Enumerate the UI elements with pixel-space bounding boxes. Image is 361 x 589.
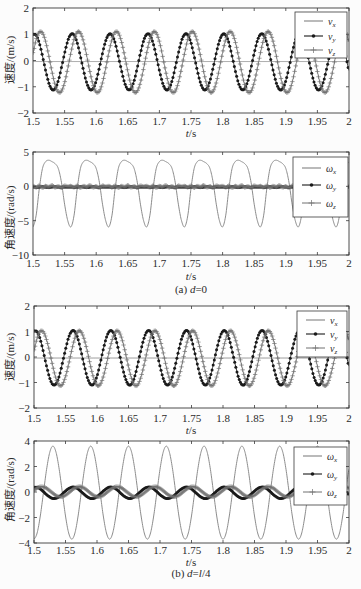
- chart-a-velocity: vxvyvz1.51.551.61.651.71.751.81.851.91.9…: [17, 2, 351, 127]
- data-point-marker: [77, 338, 80, 341]
- data-point-marker: [157, 63, 160, 66]
- data-point-marker: [118, 351, 121, 354]
- data-point-marker: [310, 72, 313, 75]
- data-point-marker: [196, 72, 199, 75]
- data-point-marker: [286, 71, 289, 74]
- x-tick-label: 1.95: [308, 412, 328, 424]
- x-tick-label: 1.95: [308, 115, 328, 127]
- data-point-marker: [43, 354, 46, 357]
- data-point-marker: [238, 378, 241, 381]
- data-point-marker: [42, 58, 45, 61]
- data-point-marker: [284, 375, 287, 378]
- data-point-marker: [158, 68, 161, 71]
- legend-box: [295, 12, 347, 58]
- chart-b-angular-velocity: ωxωyωz1.51.551.61.651.71.751.81.851.91.9…: [18, 435, 351, 556]
- data-point-marker: [96, 73, 99, 76]
- data-point-marker: [234, 366, 237, 369]
- data-point-marker: [155, 349, 158, 352]
- data-point-marker: [268, 349, 271, 352]
- x-tick-label: 1.8: [216, 544, 230, 556]
- data-point-marker: [194, 352, 197, 355]
- data-point-marker: [322, 81, 325, 84]
- data-point-marker: [256, 337, 259, 340]
- data-point-marker: [80, 62, 83, 65]
- data-point-marker: [104, 39, 107, 42]
- data-point-marker: [160, 78, 163, 81]
- data-point-marker: [82, 363, 85, 366]
- data-point-marker: [181, 334, 184, 337]
- legend: vxvyvz: [295, 12, 347, 58]
- y-tick-label: 0: [24, 180, 30, 192]
- x-tick-label: 2: [346, 115, 352, 127]
- data-point-marker: [251, 355, 254, 358]
- data-point-marker: [100, 57, 103, 60]
- data-point-marker: [47, 82, 50, 85]
- y-tick-label: 5: [24, 146, 30, 158]
- data-point-marker: [133, 374, 136, 377]
- data-point-marker: [42, 349, 45, 352]
- data-point-marker: [105, 336, 108, 339]
- data-point-marker: [122, 370, 125, 373]
- data-point-marker: [215, 52, 218, 55]
- data-point-marker: [99, 359, 102, 362]
- data-point-marker: [139, 350, 142, 353]
- data-point-marker: [44, 68, 47, 71]
- data-point-marker: [63, 352, 66, 355]
- data-point-marker: [160, 369, 163, 372]
- data-point-marker: [64, 46, 67, 49]
- data-point-marker: [39, 340, 42, 343]
- data-point-marker: [214, 57, 217, 60]
- data-point-marker: [312, 81, 315, 84]
- data-point-marker: [121, 366, 124, 369]
- x-tick-label: 1.8: [216, 412, 230, 424]
- data-point-marker: [215, 348, 218, 351]
- data-point-marker: [98, 364, 101, 367]
- data-point-marker: [43, 63, 46, 66]
- data-point-marker: [114, 337, 117, 340]
- data-point-marker: [248, 74, 251, 77]
- x-tick-label: 1.75: [181, 257, 201, 269]
- x-tick-label: 1.85: [245, 544, 265, 556]
- y-tick-label: 0: [24, 55, 30, 67]
- data-point-marker: [97, 368, 100, 371]
- data-point-marker: [132, 82, 135, 85]
- data-point-marker: [137, 59, 140, 62]
- data-point-marker: [115, 45, 118, 48]
- data-point-marker: [76, 42, 79, 45]
- data-point-marker: [274, 78, 277, 81]
- data-point-marker: [48, 377, 51, 380]
- data-point-marker: [230, 346, 233, 349]
- data-point-marker: [309, 67, 312, 70]
- data-point-marker: [270, 354, 273, 357]
- y-tick-label: −2: [18, 402, 30, 414]
- data-point-marker: [96, 373, 99, 376]
- data-point-marker: [66, 41, 69, 44]
- data-point-marker: [171, 76, 174, 79]
- data-point-marker: [227, 41, 230, 44]
- data-point-marker: [293, 338, 296, 341]
- y-tick-label: −5: [17, 215, 29, 227]
- data-point-marker: [152, 43, 155, 46]
- data-point-marker: [82, 67, 85, 70]
- data-point-marker: [285, 371, 288, 374]
- data-point-marker: [115, 341, 118, 344]
- data-point-marker: [173, 367, 176, 370]
- data-point-marker: [102, 47, 105, 50]
- data-point-marker: [117, 55, 120, 58]
- data-point-marker: [135, 69, 138, 72]
- data-point-marker: [116, 346, 119, 349]
- data-point-marker: [47, 373, 50, 376]
- data-point-marker: [99, 63, 102, 66]
- data-point-marker: [235, 75, 238, 78]
- data-point-marker: [271, 359, 274, 362]
- data-point-marker: [324, 73, 327, 76]
- data-point-marker: [326, 63, 329, 66]
- data-point-marker: [178, 347, 181, 350]
- y-axis-label-b-velocity: 速度/(m/s): [3, 333, 17, 382]
- x-tick-label: 1.95: [308, 544, 328, 556]
- data-point-marker: [59, 371, 62, 374]
- data-point-marker: [179, 41, 182, 44]
- data-point-marker: [95, 77, 98, 80]
- data-point-marker: [61, 61, 64, 64]
- data-point-marker: [191, 46, 194, 49]
